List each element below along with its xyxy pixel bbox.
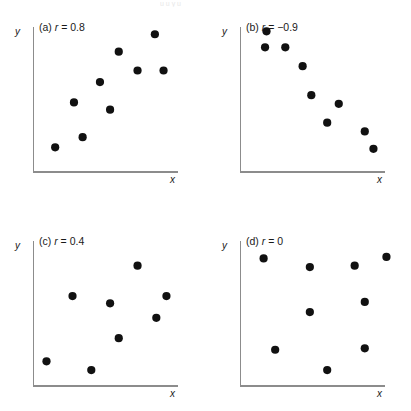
data-point	[361, 127, 369, 135]
data-point	[96, 78, 104, 86]
panel-a-data-points	[51, 30, 168, 151]
panel-b-title-prefix: (b)	[246, 21, 262, 33]
scatterplot-figure: u u y u y x (a) r = 0.8 y x	[0, 0, 411, 411]
panel-b-data-points	[261, 27, 378, 153]
panel-b-title: (b) r = −0.9	[246, 22, 298, 33]
data-point	[281, 43, 289, 51]
data-point	[152, 314, 160, 322]
data-point	[361, 298, 369, 306]
panel-a-title-suffix: = 0.8	[58, 21, 85, 33]
data-point	[42, 357, 50, 365]
panel-c-title-prefix: (c)	[39, 235, 54, 247]
panel-d-x-axis-label: x	[377, 389, 382, 399]
data-point	[151, 30, 159, 38]
panel-d-title: (d) r = 0	[246, 236, 283, 247]
panel-a: y x (a) r = 0.8	[0, 0, 206, 206]
data-point	[159, 66, 167, 74]
panel-b-y-axis-label: y	[222, 27, 227, 37]
panel-d-title-prefix: (d)	[246, 235, 262, 247]
panel-c-axes-and-points	[0, 205, 206, 411]
panel-a-axes-and-points	[0, 0, 206, 206]
data-point	[307, 91, 315, 99]
panel-c-x-axis-label: x	[170, 389, 175, 399]
panel-a-y-axis-label: y	[15, 27, 20, 37]
data-point	[260, 254, 268, 262]
data-point	[70, 98, 78, 106]
data-point	[133, 66, 141, 74]
data-point	[133, 262, 141, 270]
data-point	[106, 106, 114, 114]
data-point	[335, 100, 343, 108]
data-point	[369, 145, 377, 153]
data-point	[115, 48, 123, 56]
data-point	[261, 43, 269, 51]
data-point	[87, 366, 95, 374]
panel-a-plot-area: y x (a) r = 0.8	[0, 0, 206, 206]
data-point	[51, 143, 59, 151]
data-point	[106, 299, 114, 307]
panel-d-data-points	[260, 253, 391, 374]
panel-b-title-suffix: = −0.9	[265, 21, 298, 33]
panel-d: y x (d) r = 0	[205, 205, 411, 411]
data-point	[382, 253, 390, 261]
panel-b: y x (b) r = −0.9	[205, 0, 411, 206]
panel-b-plot-area: y x (b) r = −0.9	[205, 0, 411, 206]
panel-a-title: (a) r = 0.8	[39, 22, 85, 33]
panel-a-x-axis-label: x	[170, 175, 175, 185]
data-point	[299, 62, 307, 70]
data-point	[162, 292, 170, 300]
panel-c-title-suffix: = 0.4	[58, 235, 85, 247]
data-point	[306, 263, 314, 271]
panel-d-y-axis-label: y	[222, 241, 227, 251]
data-point	[68, 292, 76, 300]
panel-a-title-prefix: (a)	[39, 21, 55, 33]
panel-c-data-points	[42, 262, 170, 375]
panel-d-title-suffix: = 0	[265, 235, 283, 247]
data-point	[79, 133, 87, 141]
data-point	[361, 344, 369, 352]
panel-b-x-axis-label: x	[377, 175, 382, 185]
panel-d-plot-area: y x (d) r = 0	[205, 205, 411, 411]
data-point	[306, 308, 314, 316]
panel-c-title: (c) r = 0.4	[39, 236, 84, 247]
data-point	[351, 262, 359, 270]
panel-c-y-axis-label: y	[15, 241, 20, 251]
panel-c: y x (c) r = 0.4	[0, 205, 206, 411]
data-point	[323, 119, 331, 127]
data-point	[271, 346, 279, 354]
panel-d-axes-and-points	[205, 205, 411, 411]
panel-c-plot-area: y x (c) r = 0.4	[0, 205, 206, 411]
data-point	[323, 366, 331, 374]
data-point	[115, 334, 123, 342]
